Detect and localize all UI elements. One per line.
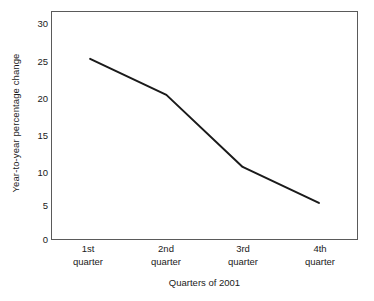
x-tick-line1: 3rd (203, 243, 283, 256)
plot-area (51, 11, 358, 240)
x-tick-line1: 4th (280, 243, 360, 256)
x-tick-line2: quarter (48, 256, 128, 269)
x-tick-line1: 1st (48, 243, 128, 256)
x-tick-line2: quarter (203, 256, 283, 269)
y-tick-label: 25 (26, 57, 48, 67)
x-tick-label-q2: 2nd quarter (126, 243, 206, 268)
x-tick-line1: 2nd (126, 243, 206, 256)
x-tick-line2: quarter (280, 256, 360, 269)
data-line-svg (52, 12, 357, 239)
y-axis-title: Year-to-year percentage change (9, 3, 23, 243)
x-axis-title: Quarters of 2001 (51, 277, 358, 289)
y-tick-label: 15 (26, 131, 48, 141)
x-axis-tick-labels: 1st quarter 2nd quarter 3rd quarter 4th … (51, 243, 358, 271)
y-tick-label: 10 (26, 168, 48, 178)
y-tick-label: 0 (26, 235, 48, 245)
line-chart-figure: Year-to-year percentage change 30 25 20 … (0, 0, 374, 301)
y-tick-label: 20 (26, 94, 48, 104)
data-series-line (90, 59, 319, 203)
x-tick-line2: quarter (126, 256, 206, 269)
y-tick-label: 30 (26, 19, 48, 29)
x-tick-label-q3: 3rd quarter (203, 243, 283, 268)
x-tick-label-q4: 4th quarter (280, 243, 360, 268)
x-tick-label-q1: 1st quarter (48, 243, 128, 268)
y-tick-label: 5 (26, 201, 48, 211)
y-axis-tick-labels: 30 25 20 15 10 5 0 (26, 0, 48, 301)
